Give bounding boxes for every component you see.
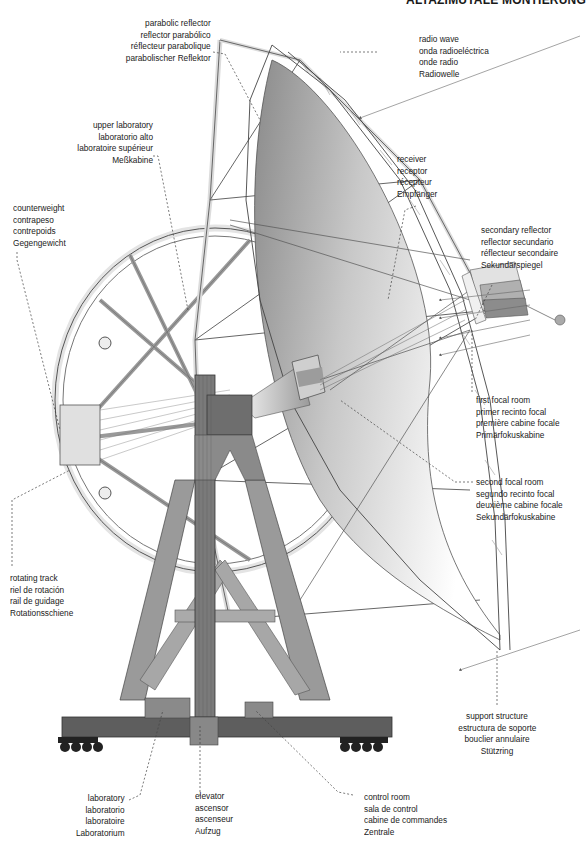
label-first-focal-room: first focal room primer recinto focal pr… <box>476 394 559 440</box>
counterweight <box>60 405 100 465</box>
secondary-reflector <box>462 262 528 324</box>
label-parabolic-reflector: parabolic reflector reflector parabólico… <box>126 17 211 63</box>
label-upper-laboratory: upper laboratory laboratorio alto labora… <box>77 119 153 165</box>
base-carriage <box>58 698 392 752</box>
label-support-structure: support structure estructura de soporte … <box>458 710 535 756</box>
label-receiver: receiver receptor récepteur Empfänger <box>397 153 437 199</box>
label-second-focal-room: second focal room segundo recinto focal … <box>476 476 563 522</box>
secondary-reflector-counterweight <box>555 315 565 325</box>
label-elevator: elevator ascensor ascenseur Aufzug <box>195 790 233 836</box>
label-counterweight: counterweight contrapeso contrepoids Geg… <box>13 202 66 248</box>
label-laboratory: laboratory laboratorio laboratoire Labor… <box>76 792 125 838</box>
label-secondary-reflector: secondary reflector reflector secundario… <box>481 224 558 270</box>
label-radio-wave: radio wave onda radioeléctrica onde radi… <box>419 33 489 79</box>
label-rotating-track: rotating track riel de rotación rail de … <box>10 572 73 618</box>
label-control-room: control room sala de control cabine de c… <box>364 791 447 837</box>
